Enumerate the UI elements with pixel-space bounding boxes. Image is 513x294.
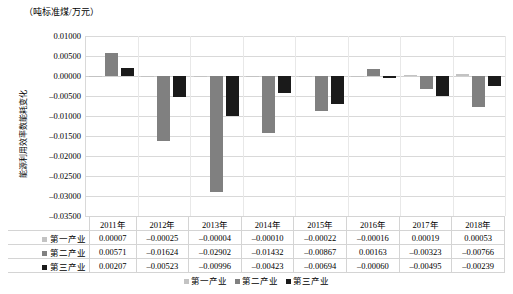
table-column-header: 2016年 xyxy=(347,217,400,231)
table-cell: –0.01624 xyxy=(136,245,189,259)
table-row-header: 第一产业 xyxy=(8,231,90,245)
table-cell: –0.00022 xyxy=(294,231,347,245)
table-row: 第二产业0.00571–0.01624–0.02902–0.01432–0.00… xyxy=(8,245,505,259)
bar xyxy=(383,76,396,78)
table-cell: 0.00019 xyxy=(399,231,452,245)
bar xyxy=(299,76,312,77)
y-tick-label: –0.01000 xyxy=(35,112,81,121)
data-table-wrapper: 2011年2012年2013年2014年2015年2016年2017年2018年… xyxy=(8,216,505,273)
table-column-header: 2015年 xyxy=(294,217,347,231)
y-tick-label: –0.02000 xyxy=(35,152,81,161)
table-cell: –0.00766 xyxy=(452,245,505,259)
bar xyxy=(278,76,291,93)
y-axis-title: 能源利用效率数能耗变化 xyxy=(17,49,28,219)
table-cell: –0.02902 xyxy=(189,245,242,259)
table-cell: –0.00495 xyxy=(399,259,452,273)
legend-color-swatch-icon xyxy=(235,279,240,284)
bar xyxy=(315,76,328,111)
series-name: 第二产业 xyxy=(50,248,86,258)
bar xyxy=(351,76,364,77)
bar xyxy=(89,76,102,77)
table-cell: –0.00996 xyxy=(189,259,242,273)
bar xyxy=(456,74,469,76)
table-cell: 0.00163 xyxy=(347,245,400,259)
legend-item[interactable]: 第一产业 xyxy=(184,276,227,286)
y-tick-label: 0.00500 xyxy=(35,52,81,61)
bar xyxy=(194,76,207,77)
legend-item[interactable]: 第二产业 xyxy=(235,276,278,286)
series-name: 第一产业 xyxy=(50,234,86,244)
bar xyxy=(157,76,170,141)
bar xyxy=(367,69,380,76)
table-cell: –0.00239 xyxy=(452,259,505,273)
table-cell: 0.00207 xyxy=(90,259,137,273)
table-cell: –0.00010 xyxy=(241,231,294,245)
series-color-swatch-icon xyxy=(42,265,47,270)
y-tick-label: 0.00000 xyxy=(35,72,81,81)
bar-group xyxy=(85,36,138,216)
bar xyxy=(121,68,134,76)
table-cell: –0.01432 xyxy=(241,245,294,259)
table-corner-cell xyxy=(8,217,90,231)
table-column-header: 2011年 xyxy=(90,217,137,231)
bar-group xyxy=(453,36,506,216)
legend-label: 第二产业 xyxy=(242,276,278,286)
chart-legend: 第一产业第二产业第三产业 xyxy=(0,274,513,286)
bar-group xyxy=(348,36,401,216)
table-cell: –0.00867 xyxy=(294,245,347,259)
legend-label: 第三产业 xyxy=(293,276,329,286)
category-separator xyxy=(505,36,506,216)
y-tick-label: –0.01500 xyxy=(35,132,81,141)
table-row: 第一产业0.00007–0.00025–0.00004–0.00010–0.00… xyxy=(8,231,505,245)
bar-group xyxy=(190,36,243,216)
bar xyxy=(420,76,433,89)
y-axis-tick-labels: 0.010000.005000.00000–0.00500–0.01000–0.… xyxy=(33,0,81,230)
table-cell: –0.00423 xyxy=(241,259,294,273)
bar xyxy=(141,76,154,77)
table-column-header: 2012年 xyxy=(136,217,189,231)
table-cell: –0.00060 xyxy=(347,259,400,273)
y-tick-label: –0.02500 xyxy=(35,172,81,181)
legend-item[interactable]: 第三产业 xyxy=(286,276,329,286)
table-cell: –0.00004 xyxy=(189,231,242,245)
bar xyxy=(262,76,275,133)
data-table: 2011年2012年2013年2014年2015年2016年2017年2018年… xyxy=(8,216,505,273)
bar-group xyxy=(400,36,453,216)
bar xyxy=(331,76,344,104)
legend-label: 第一产业 xyxy=(191,276,227,286)
bar-group xyxy=(243,36,296,216)
bar xyxy=(246,76,259,77)
bar xyxy=(436,76,449,96)
bar-group xyxy=(295,36,348,216)
bar xyxy=(472,76,485,107)
table-cell: 0.00007 xyxy=(90,231,137,245)
y-tick-label: –0.03000 xyxy=(35,192,81,201)
bar xyxy=(105,53,118,76)
bar xyxy=(210,76,223,192)
table-cell: –0.00323 xyxy=(399,245,452,259)
y-tick-label: –0.00500 xyxy=(35,92,81,101)
table-cell: –0.00016 xyxy=(347,231,400,245)
table-column-header: 2014年 xyxy=(241,217,294,231)
table-cell: 0.00571 xyxy=(90,245,137,259)
table-cell: –0.00523 xyxy=(136,259,189,273)
bar xyxy=(488,76,501,86)
table-column-header: 2013年 xyxy=(189,217,242,231)
table-column-header: 2017年 xyxy=(399,217,452,231)
bar xyxy=(226,76,239,116)
legend-color-swatch-icon xyxy=(184,279,189,284)
table-cell: 0.00053 xyxy=(452,231,505,245)
bar xyxy=(173,76,186,97)
legend-color-swatch-icon xyxy=(286,279,291,284)
table-column-header: 2018年 xyxy=(452,217,505,231)
series-name: 第三产业 xyxy=(50,262,86,272)
table-row-header: 第三产业 xyxy=(8,259,90,273)
bar xyxy=(404,75,417,76)
table-row-header: 第二产业 xyxy=(8,245,90,259)
table-row: 第三产业0.00207–0.00523–0.00996–0.00423–0.00… xyxy=(8,259,505,273)
chart-page: （吨标准煤/万元） 能源利用效率数能耗变化 0.010000.005000.00… xyxy=(0,0,513,294)
table-cell: –0.00694 xyxy=(294,259,347,273)
plot-area xyxy=(85,36,505,216)
table-header-row: 2011年2012年2013年2014年2015年2016年2017年2018年 xyxy=(8,217,505,231)
series-color-swatch-icon xyxy=(42,251,47,256)
